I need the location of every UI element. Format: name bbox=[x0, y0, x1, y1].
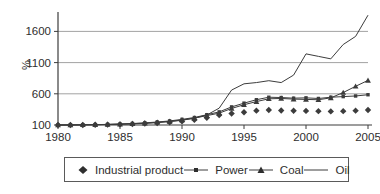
y-tick-label: 1600 bbox=[25, 25, 51, 37]
diamond-marker-icon bbox=[77, 165, 89, 175]
marker-diamond-industrial-product bbox=[278, 107, 284, 113]
marker-diamond-industrial-product bbox=[266, 107, 272, 113]
marker-triangle-coal bbox=[353, 83, 359, 88]
legend-label-coal: Coal bbox=[280, 164, 304, 176]
chart-legend: Industrial product Power Coal Oil bbox=[64, 157, 349, 182]
marker-diamond-industrial-product bbox=[340, 108, 346, 114]
x-tick-label: 1990 bbox=[169, 131, 195, 143]
marker-diamond-industrial-product bbox=[228, 110, 234, 116]
marker-diamond-industrial-product bbox=[365, 107, 371, 113]
line-square-marker-icon bbox=[183, 165, 209, 175]
legend-label-oil: Oil bbox=[335, 164, 349, 176]
marker-diamond-industrial-product bbox=[303, 108, 309, 114]
marker-triangle-coal bbox=[340, 90, 346, 95]
y-tick-label: 100 bbox=[32, 119, 51, 131]
x-tick-label: 1995 bbox=[231, 131, 257, 143]
marker-square-power bbox=[366, 93, 369, 96]
x-tick-label: 2005 bbox=[355, 131, 380, 143]
y-tick-label: 600 bbox=[32, 88, 51, 100]
marker-diamond-industrial-product bbox=[328, 108, 334, 114]
line-marker-icon bbox=[303, 165, 329, 175]
legend-item-industrial-product: Industrial product bbox=[77, 164, 183, 176]
legend-item-oil: Oil bbox=[303, 164, 349, 176]
legend-label-industrial-product: Industrial product bbox=[95, 164, 183, 176]
y-axis-title: % bbox=[20, 58, 34, 72]
line-triangle-marker-icon bbox=[248, 165, 274, 175]
series-line-coal bbox=[58, 80, 368, 125]
x-tick-label: 1985 bbox=[107, 131, 133, 143]
marker-diamond-industrial-product bbox=[241, 109, 247, 115]
legend-item-power: Power bbox=[183, 164, 248, 176]
chart-area: 10060011001600198019851990199520002005 %… bbox=[0, 0, 380, 194]
marker-diamond-industrial-product bbox=[315, 108, 321, 114]
legend-item-coal: Coal bbox=[248, 164, 304, 176]
x-tick-label: 1980 bbox=[45, 131, 71, 143]
marker-triangle-coal bbox=[365, 77, 371, 82]
marker-diamond-industrial-product bbox=[253, 107, 259, 113]
marker-diamond-industrial-product bbox=[290, 108, 296, 114]
marker-square-power bbox=[342, 95, 345, 98]
marker-square-power bbox=[354, 94, 357, 97]
x-tick-label: 2000 bbox=[293, 131, 319, 143]
legend-label-power: Power bbox=[215, 164, 248, 176]
marker-diamond-industrial-product bbox=[352, 107, 358, 113]
